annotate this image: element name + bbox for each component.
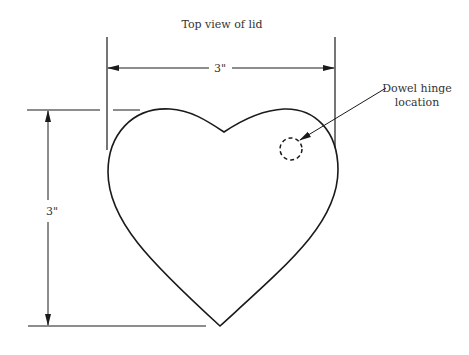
height-label: 3" (46, 205, 58, 218)
diagram-title: Top view of lid (181, 18, 262, 31)
lid-diagram: Top view of lid 3" 3" Dowel hinge locati… (0, 0, 469, 355)
heart-lid-outline (108, 109, 338, 326)
width-label: 3" (214, 62, 226, 75)
width-dimension: 3" (108, 62, 334, 75)
callout-text-line1: Dowel hinge (382, 82, 452, 95)
callout-text-line2: location (395, 96, 440, 109)
callout-leader-arrow (300, 88, 386, 140)
height-dimension: 3" (46, 111, 58, 325)
dowel-hinge-circle (280, 138, 302, 160)
